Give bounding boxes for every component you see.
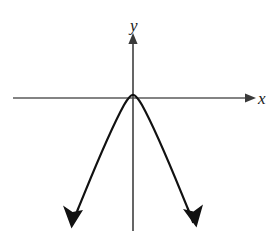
right-branch-arrowhead-icon xyxy=(183,205,203,228)
parabola-figure: y x xyxy=(0,0,274,231)
left-branch-arrowhead-icon xyxy=(63,206,83,229)
x-axis-label: x xyxy=(257,89,266,108)
parabola-graph-canvas: y x xyxy=(0,0,274,231)
y-axis-label: y xyxy=(128,16,138,35)
x-axis-arrowhead-icon xyxy=(245,93,256,102)
